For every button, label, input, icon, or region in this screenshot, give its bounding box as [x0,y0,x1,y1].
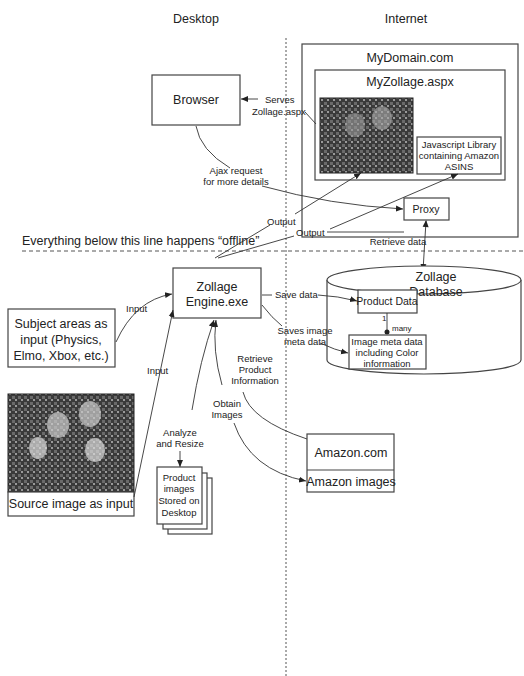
save-data-label: Save data [275,289,318,300]
input-label-1: Input [126,303,147,314]
svg-text:information: information [364,358,411,369]
svg-text:Desktop: Desktop [162,507,197,518]
cardinality-one: 1 [382,314,387,323]
svg-text:Product: Product [163,472,196,483]
zollage-engine-box: Zollage Engine.exe [173,268,261,318]
svg-text:Javascript Library: Javascript Library [422,139,497,150]
input-label-2: Input [147,365,168,376]
serves-label: Serves [265,94,295,105]
product-data-box: Product Data [356,290,417,313]
ajax-label: Ajax request [210,165,263,176]
svg-text:containing Amazon: containing Amazon [419,150,499,161]
javascript-library-box: Javascript Library containing Amazon ASI… [417,137,501,174]
myzollage-label: MyZollage.aspx [366,75,454,89]
svg-text:Zollage: Zollage [197,280,238,294]
svg-text:Elmo, Xbox, etc.): Elmo, Xbox, etc.) [13,349,108,363]
svg-text:for more details: for more details [203,176,269,187]
architecture-diagram: Desktop Internet Everything below this l… [0,0,524,676]
svg-text:Image meta data: Image meta data [351,336,423,347]
internet-region-label: Internet [385,12,428,26]
svg-text:input (Physics,: input (Physics, [20,333,101,347]
svg-text:ASINS: ASINS [445,161,474,172]
saves-image-meta-label: Saves image [278,325,333,336]
mydomain-label: MyDomain.com [367,51,454,65]
svg-text:images: images [164,483,195,494]
desktop-region-label: Desktop [173,12,219,26]
svg-text:Product Data: Product Data [356,295,417,307]
svg-text:Proxy: Proxy [413,203,441,215]
proxy-box: Proxy [404,198,449,220]
retrieve-product-label: Retrieve [237,353,272,364]
analyze-resize-label: Analyze [163,427,197,438]
browser-box: Browser [152,75,240,125]
svg-text:including Color: including Color [356,347,419,358]
product-images-stack: Product images Stored on Desktop [157,467,212,534]
svg-text:and Resize: and Resize [156,438,204,449]
amazon-images-label: Amazon images [306,475,396,489]
svg-text:Browser: Browser [173,93,219,107]
obtain-images-label: Obtain [213,398,241,409]
collage-image [320,98,413,173]
svg-text:meta data: meta data [284,336,327,347]
offline-note: Everything below this line happens “offl… [22,234,259,248]
amazon-com-label: Amazon.com [315,446,388,460]
svg-text:Engine.exe: Engine.exe [186,295,249,309]
svg-text:Information: Information [231,375,279,386]
cardinality-many: many [392,324,412,333]
svg-text:Stored on: Stored on [158,495,199,506]
subject-areas-box: Subject areas as input (Physics, Elmo, X… [8,309,115,367]
svg-text:Product: Product [239,364,272,375]
svg-text:Subject areas as: Subject areas as [14,317,107,331]
output-label-1: Output [267,216,296,227]
amazon-box: Amazon.com Amazon images [306,434,396,492]
output-label-2: Output [296,227,325,238]
svg-text:Source image as input: Source image as input [9,497,134,511]
retrieve-data-label: Retrieve data [370,236,427,247]
serves-label-2: Zollage.aspx [252,106,306,117]
svg-text:Zollage: Zollage [416,270,457,284]
source-image-box: Source image as input [8,394,134,516]
svg-text:Images: Images [211,409,242,420]
image-meta-box: Image meta data including Color informat… [349,335,426,369]
